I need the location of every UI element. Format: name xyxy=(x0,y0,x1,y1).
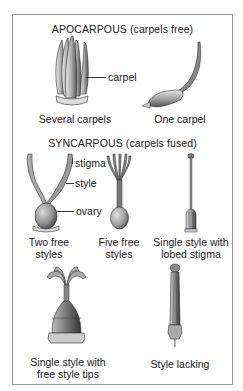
apocarpous-heading: APOCARPOUS (carpels free) xyxy=(12,23,233,35)
style-callout-line xyxy=(66,183,74,184)
five-free-styles-illustration xyxy=(104,152,134,234)
one-carpel-illustration xyxy=(140,40,206,112)
carpel-callout-label: carpel xyxy=(108,71,137,83)
stigma-callout-label: stigma xyxy=(75,157,106,169)
lobed-stigma-illustration xyxy=(183,153,199,235)
free-style-tips-illustration xyxy=(44,263,90,347)
lobed-stigma-label-line2: lobed stigma xyxy=(150,248,232,260)
ovary-callout-line xyxy=(56,211,74,212)
lobed-stigma-label-line1: Single style with xyxy=(150,236,232,248)
two-free-styles-label-line1: Two free xyxy=(14,236,84,248)
two-free-styles-label-line2: styles xyxy=(14,248,84,260)
style-lacking-label: Style lacking xyxy=(140,358,220,370)
five-free-styles-label-line1: Five free xyxy=(86,236,152,248)
five-free-styles-label-line2: styles xyxy=(86,248,152,260)
style-lacking-illustration xyxy=(165,263,185,349)
ovary-callout-label: ovary xyxy=(76,205,102,217)
carpel-callout-line xyxy=(86,77,106,78)
free-style-tips-label-line2: free style tips xyxy=(18,368,118,380)
several-carpels-label: Several carpels xyxy=(30,113,120,125)
one-carpel-label: One carpel xyxy=(140,113,220,125)
two-free-styles-illustration xyxy=(24,152,80,234)
syncarpous-heading: SYNCARPOUS (carpels fused) xyxy=(12,137,233,149)
stigma-callout-line xyxy=(72,158,73,164)
free-style-tips-label-line1: Single style with xyxy=(18,356,118,368)
several-carpels-illustration xyxy=(52,36,92,108)
style-callout-label: style xyxy=(75,177,97,189)
